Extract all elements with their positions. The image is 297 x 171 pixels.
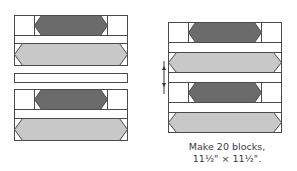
right-row2-light-light-hexagon bbox=[169, 53, 282, 73]
left-unit2-strip bbox=[15, 110, 128, 119]
left-unit1-light-row-light-hexagon bbox=[15, 44, 128, 66]
left-unit1-strip bbox=[15, 36, 128, 44]
caption-line-1: Make 20 blocks, bbox=[176, 141, 278, 153]
right-row1-dark-dark-hexagon bbox=[189, 23, 262, 43]
right-row4-light-light-hexagon bbox=[169, 113, 282, 133]
right-strip-1 bbox=[169, 43, 282, 53]
left-unit2-light-row-light-hexagon bbox=[15, 119, 128, 141]
press-arrow-down-icon bbox=[162, 83, 166, 87]
caption-line-2: 11½" × 11½". bbox=[176, 153, 278, 165]
left-unit1-dark-row-dark-hexagon bbox=[35, 16, 108, 36]
press-arrow-up-icon bbox=[162, 66, 166, 70]
left-unit2-dark-row-dark-hexagon bbox=[35, 90, 108, 110]
right-strip-2 bbox=[169, 73, 282, 83]
left-sashing-strip bbox=[15, 74, 128, 83]
right-strip-3 bbox=[169, 103, 282, 113]
right-row3-dark-dark-hexagon bbox=[189, 83, 262, 103]
